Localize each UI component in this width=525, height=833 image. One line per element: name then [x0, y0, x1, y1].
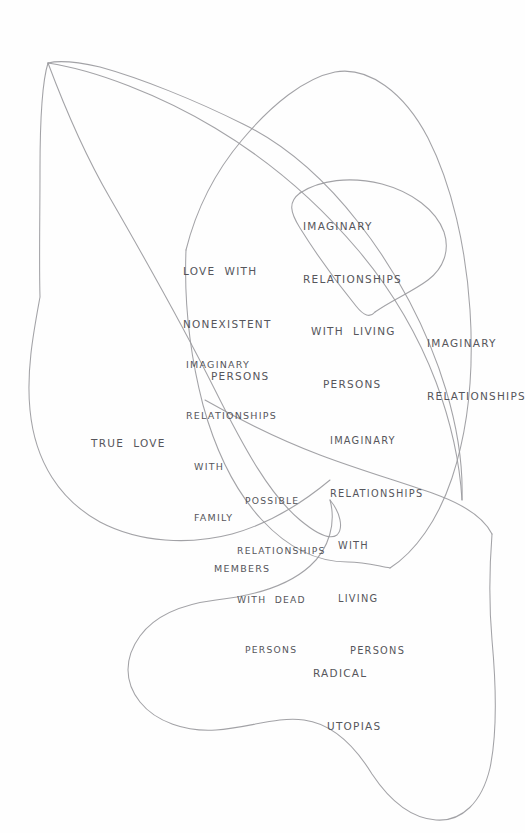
region-label-true-love: TRUE LOVE [91, 400, 166, 488]
label-line: IMAGINARY [303, 218, 402, 236]
label-line: WITH DEAD [237, 592, 326, 609]
diagram-canvas: LOVE WITH NONEXISTENT PERSONS IMAGINARY … [0, 0, 525, 833]
label-line: PERSONS [303, 376, 402, 394]
label-line: RELATIONSHIPS [237, 543, 326, 560]
label-line: RELATIONSHIPS [330, 485, 423, 503]
label-line: IMAGINARY [186, 356, 277, 373]
label-line: UTOPIAS [313, 718, 381, 736]
label-line: RELATIONSHIPS [427, 388, 525, 406]
label-line: TRUE LOVE [91, 435, 166, 453]
label-line: WITH [330, 537, 423, 555]
label-line: IMAGINARY [330, 432, 423, 450]
label-line: WITH LIVING [303, 323, 402, 341]
region-label-radical-utopias: RADICAL UTOPIAS [313, 630, 381, 770]
region-label-imaginary-relationships-with-living-persons-top: IMAGINARY RELATIONSHIPS WITH LIVING PERS… [303, 183, 402, 428]
label-line: RELATIONSHIPS [186, 407, 277, 424]
label-line: RELATIONSHIPS [303, 271, 402, 289]
label-line: LOVE WITH [183, 263, 272, 281]
region-label-imaginary-relationships: IMAGINARY RELATIONSHIPS [427, 300, 525, 440]
label-line: POSSIBLE [237, 493, 326, 510]
label-line: RADICAL [313, 665, 381, 683]
label-line: LIVING [330, 590, 423, 608]
label-line: IMAGINARY [427, 335, 525, 353]
